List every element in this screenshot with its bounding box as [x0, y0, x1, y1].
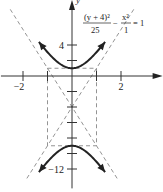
x-tick-label: 2	[119, 81, 124, 92]
x-tick-label: −2	[14, 81, 25, 92]
equation-rhs: = 1	[133, 18, 144, 28]
x-axis-arrow	[153, 73, 163, 79]
equation-numerator-1: (y + 4)²	[84, 12, 110, 22]
y-axis-label: y	[75, 0, 80, 5]
y-tick-label: −12	[48, 164, 64, 175]
equation-denominator-2: 1	[124, 25, 128, 35]
equation-numerator-2: x²	[122, 12, 129, 22]
y-tick-label: 4	[59, 40, 64, 51]
hyperbola-chart: −224−12xy (y + 4)² 25 − x² 1 = 1	[0, 0, 163, 192]
asymptote-2	[10, 9, 117, 179]
equation-minus: −	[113, 18, 118, 28]
asymptote-1	[26, 9, 133, 179]
equation-label: (y + 4)² 25 − x² 1 = 1	[83, 12, 144, 35]
equation-denominator-1: 25	[91, 25, 100, 35]
y-axis-arrow	[69, 0, 75, 10]
